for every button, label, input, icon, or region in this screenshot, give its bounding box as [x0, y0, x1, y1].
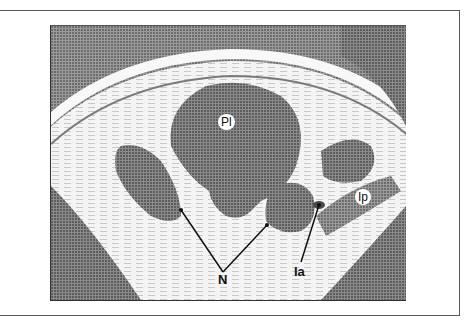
- ct-scan-drawing: [51, 26, 406, 300]
- pointer-dot-ia: [317, 203, 321, 207]
- figure-frame-right-border: [459, 10, 460, 316]
- ct-scan-image: Pl N Ia Ip: [50, 25, 406, 301]
- pointer-dot-n-left: [179, 208, 183, 212]
- label-ip: Ip: [355, 189, 371, 205]
- pointer-dot-n-right: [265, 223, 269, 227]
- label-pl: Pl: [218, 114, 235, 130]
- figure-frame-bottom-border: [0, 315, 460, 316]
- figure-frame-top-border: [0, 10, 460, 11]
- label-n: N: [218, 272, 227, 287]
- label-ia: Ia: [294, 264, 305, 279]
- right-node-organ: [265, 183, 314, 233]
